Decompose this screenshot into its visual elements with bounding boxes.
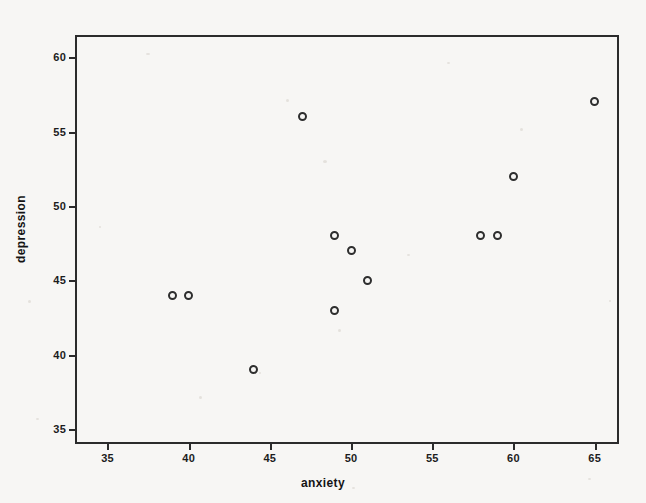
scan-speck bbox=[99, 226, 101, 228]
x-tick-label-40: 40 bbox=[182, 452, 195, 464]
scan-speck bbox=[323, 160, 327, 163]
scan-speck bbox=[520, 128, 523, 131]
x-tick-label-45: 45 bbox=[264, 452, 277, 464]
scan-speck bbox=[447, 62, 450, 64]
x-tick-label-55: 55 bbox=[426, 452, 439, 464]
y-tick-45 bbox=[69, 280, 75, 282]
y-tick-label-35: 35 bbox=[44, 423, 66, 435]
x-tick-35 bbox=[107, 444, 109, 450]
y-tick-label-60: 60 bbox=[44, 51, 66, 63]
x-tick-65 bbox=[595, 444, 597, 450]
scan-speck bbox=[286, 99, 289, 102]
data-point bbox=[347, 246, 356, 255]
y-tick-55 bbox=[69, 132, 75, 134]
y-tick-60 bbox=[69, 57, 75, 59]
x-tick-60 bbox=[513, 444, 515, 450]
scan-speck bbox=[609, 300, 611, 302]
data-point bbox=[330, 306, 339, 315]
scan-speck bbox=[146, 53, 150, 55]
data-point bbox=[509, 172, 518, 181]
data-point bbox=[363, 276, 372, 285]
x-tick-55 bbox=[432, 444, 434, 450]
x-tick-label-35: 35 bbox=[101, 452, 114, 464]
x-tick-label-65: 65 bbox=[588, 452, 601, 464]
y-tick-label-50: 50 bbox=[44, 200, 66, 212]
x-tick-40 bbox=[189, 444, 191, 450]
data-point bbox=[493, 231, 502, 240]
y-tick-label-45: 45 bbox=[44, 274, 66, 286]
data-point bbox=[184, 291, 193, 300]
scan-speck bbox=[588, 478, 591, 480]
scan-speck bbox=[199, 396, 202, 399]
y-tick-35 bbox=[69, 429, 75, 431]
x-axis-title: anxiety bbox=[0, 476, 646, 490]
scan-speck bbox=[338, 329, 341, 332]
scan-speck bbox=[259, 372, 261, 374]
y-tick-label-55: 55 bbox=[44, 126, 66, 138]
y-tick-40 bbox=[69, 355, 75, 357]
data-point bbox=[168, 291, 177, 300]
x-tick-50 bbox=[351, 444, 353, 450]
y-tick-label-40: 40 bbox=[44, 349, 66, 361]
scan-speck bbox=[407, 254, 410, 256]
y-tick-50 bbox=[69, 206, 75, 208]
scatter-plot-figure: 35404550556065 354045505560 anxiety depr… bbox=[0, 0, 646, 503]
y-axis-title: depression bbox=[14, 179, 28, 279]
x-tick-label-50: 50 bbox=[345, 452, 358, 464]
x-tick-45 bbox=[270, 444, 272, 450]
scan-speck bbox=[36, 418, 39, 420]
x-tick-label-60: 60 bbox=[507, 452, 520, 464]
scan-speck bbox=[28, 300, 31, 303]
plot-area bbox=[75, 35, 619, 444]
scan-speck bbox=[352, 487, 355, 489]
